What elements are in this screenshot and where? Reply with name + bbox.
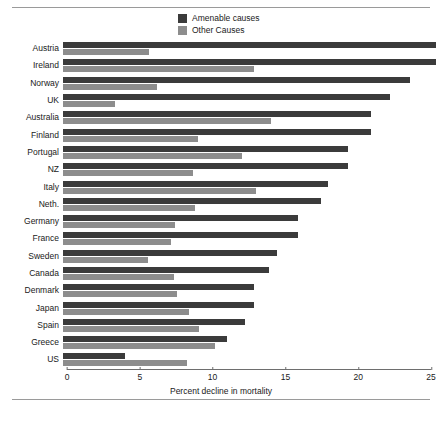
bar-pair [63,76,442,91]
bar-pair [63,318,442,333]
bar-pair [63,93,442,108]
bar-pair [63,352,442,367]
bottom-divider [12,399,430,400]
bar-other-causes [63,343,215,349]
bar-amenable-causes [63,163,348,169]
bar-row: Sweden [0,248,442,265]
legend-swatch-other-causes [178,26,187,35]
x-tick-mark [140,367,141,370]
bar-amenable-causes [63,181,328,187]
bar-other-causes [63,136,198,142]
chart-figure: Amenable causes Other Causes AustriaIrel… [0,0,442,421]
bar-row: Germany [0,213,442,230]
bar-row: Neth. [0,196,442,213]
bar-amenable-causes [63,111,371,117]
bar-other-causes [63,291,177,297]
bar-pair [63,128,442,143]
bar-pair [63,266,442,281]
x-tick-mark [213,367,214,370]
category-label: Portugal [0,148,63,157]
bar-row: Japan [0,299,442,316]
x-tick-label: 0 [65,371,70,383]
bar-other-causes [63,170,193,176]
bar-other-causes [63,118,271,124]
category-label: Canada [0,269,63,278]
bar-amenable-causes [63,42,436,48]
bar-pair [63,162,442,177]
category-label: Spain [0,321,63,330]
bar-pair [63,145,442,160]
x-axis-label: Percent decline in mortality [0,386,442,396]
bar-other-causes [63,188,256,194]
bar-row: France [0,230,442,247]
x-axis-line [67,369,431,370]
x-tick-label: 15 [281,371,290,383]
category-label: NZ [0,165,63,174]
x-tick-mark [358,367,359,370]
bar-other-causes [63,84,157,90]
bar-pair [63,214,442,229]
x-axis-ticks: 0510152025 [67,371,431,383]
bar-amenable-causes [63,302,254,308]
top-divider [12,7,430,8]
bar-amenable-causes [63,267,269,273]
bar-amenable-causes [63,198,321,204]
x-tick-label: 10 [208,371,217,383]
bar-other-causes [63,257,148,263]
category-label: Germany [0,217,63,226]
bar-pair [63,58,442,73]
bar-pair [63,197,442,212]
bar-pair [63,249,442,264]
category-label: Ireland [0,61,63,70]
bar-row: Canada [0,265,442,282]
bar-rows: AustriaIrelandNorwayUKAustraliaFinlandPo… [0,40,442,369]
bar-other-causes [63,49,149,55]
x-tick-label: 25 [426,371,435,383]
bar-pair [63,301,442,316]
category-label: Neth. [0,200,63,209]
bar-amenable-causes [63,319,245,325]
bar-other-causes [63,309,189,315]
bar-row: Italy [0,178,442,195]
bar-other-causes [63,239,171,245]
chart-legend: Amenable causes Other Causes [0,13,442,35]
bar-other-causes [63,66,254,72]
bar-row: Portugal [0,144,442,161]
category-label: UK [0,96,63,105]
bar-row: Ireland [0,57,442,74]
x-tick-label: 5 [137,371,142,383]
bar-row: Finland [0,126,442,143]
bar-other-causes [63,360,187,366]
bar-pair [63,231,442,246]
bar-amenable-causes [63,250,277,256]
category-label: Denmark [0,286,63,295]
category-label: Finland [0,131,63,140]
bar-amenable-causes [63,336,227,342]
bar-amenable-causes [63,59,436,65]
category-label: Australia [0,113,63,122]
plot-area: AustriaIrelandNorwayUKAustraliaFinlandPo… [0,40,442,370]
bar-pair [63,180,442,195]
bar-other-causes [63,222,175,228]
bar-pair [63,283,442,298]
bar-amenable-causes [63,284,254,290]
bar-amenable-causes [63,129,371,135]
bar-row: Denmark [0,282,442,299]
bar-other-causes [63,153,242,159]
category-label: Austria [0,44,63,53]
category-label: Sweden [0,252,63,261]
bar-amenable-causes [63,353,125,359]
x-tick-mark [67,367,68,370]
legend-swatch-amenable-causes [178,14,187,23]
bar-row: NZ [0,161,442,178]
legend-item-amenable-causes: Amenable causes [178,13,442,23]
legend-label-other-causes: Other Causes [192,25,244,35]
bar-row: Greece [0,334,442,351]
bar-pair [63,41,442,56]
bar-row: Austria [0,40,442,57]
legend-item-other-causes: Other Causes [178,25,442,35]
bar-amenable-causes [63,232,298,238]
bar-other-causes [63,326,199,332]
bar-other-causes [63,274,174,280]
category-label: Italy [0,183,63,192]
